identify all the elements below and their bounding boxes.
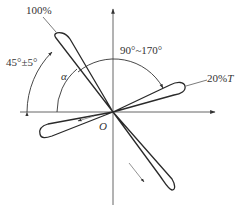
secondary-lobe	[113, 82, 185, 112]
label-origin: O	[99, 120, 107, 132]
angle-arc-alpha	[57, 69, 77, 112]
label-alpha: α	[61, 70, 67, 82]
flow-arrow-bottom	[129, 163, 144, 182]
label-90-170: 90°~170°	[120, 44, 162, 56]
label-20T: 20%T	[207, 72, 234, 84]
lobes	[40, 33, 185, 190]
leader-20T	[186, 80, 207, 86]
lobe-diagram: 100% 20%T 45°±5° 90°~170° α O	[0, 0, 239, 209]
leader-100	[43, 17, 56, 32]
label-45: 45°±5°	[6, 56, 37, 68]
label-100: 100%	[26, 4, 52, 16]
axes	[20, 9, 215, 205]
bottom-lobe	[113, 112, 175, 190]
